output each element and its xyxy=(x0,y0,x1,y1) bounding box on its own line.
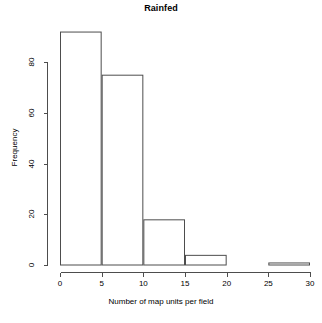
y-axis-label: Frequency xyxy=(11,129,20,167)
x-axis-label: Number of map units per field xyxy=(0,297,322,306)
y-tick-label: 0 xyxy=(28,255,36,275)
axes-group xyxy=(0,0,322,323)
y-tick-label: 20 xyxy=(28,204,36,224)
y-tick-label-wrap: 40 xyxy=(22,160,42,168)
x-tick-label: 25 xyxy=(256,279,280,289)
y-tick-label: 80 xyxy=(28,52,36,72)
y-tick-label-wrap: 80 xyxy=(22,58,42,66)
y-axis-label-wrap: Frequency xyxy=(8,30,22,265)
x-tick-label: 10 xyxy=(131,279,155,289)
histogram-plot: Rainfed 051015202530 020406080 Number of… xyxy=(0,0,322,323)
y-tick-label-wrap: 20 xyxy=(22,210,42,218)
x-tick-label: 20 xyxy=(215,279,239,289)
y-tick-label-wrap: 0 xyxy=(22,261,42,269)
x-tick-label: 0 xyxy=(48,279,72,289)
y-tick-label: 60 xyxy=(28,103,36,123)
x-tick-label: 15 xyxy=(173,279,197,289)
x-tick-label: 30 xyxy=(298,279,322,289)
y-tick-label-wrap: 60 xyxy=(22,109,42,117)
y-tick-label: 40 xyxy=(28,154,36,174)
x-tick-label: 5 xyxy=(90,279,114,289)
